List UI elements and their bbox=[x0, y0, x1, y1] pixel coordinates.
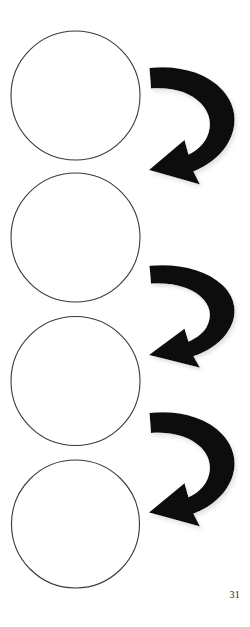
diagram-circle-2 bbox=[11, 173, 140, 302]
diagram-circle-3 bbox=[11, 317, 140, 446]
cycle-diagram-figure bbox=[0, 0, 250, 627]
arrow-group bbox=[149, 67, 235, 526]
page-canvas: 31 bbox=[0, 0, 250, 627]
curved-arrow-icon-2 bbox=[149, 265, 235, 368]
curved-arrow-icon-3 bbox=[149, 412, 235, 526]
diagram-circle-1 bbox=[11, 31, 140, 160]
circle-group bbox=[11, 31, 140, 588]
page-number: 31 bbox=[229, 590, 240, 600]
curved-arrow-icon-1 bbox=[149, 67, 235, 184]
diagram-circle-4 bbox=[12, 460, 140, 588]
